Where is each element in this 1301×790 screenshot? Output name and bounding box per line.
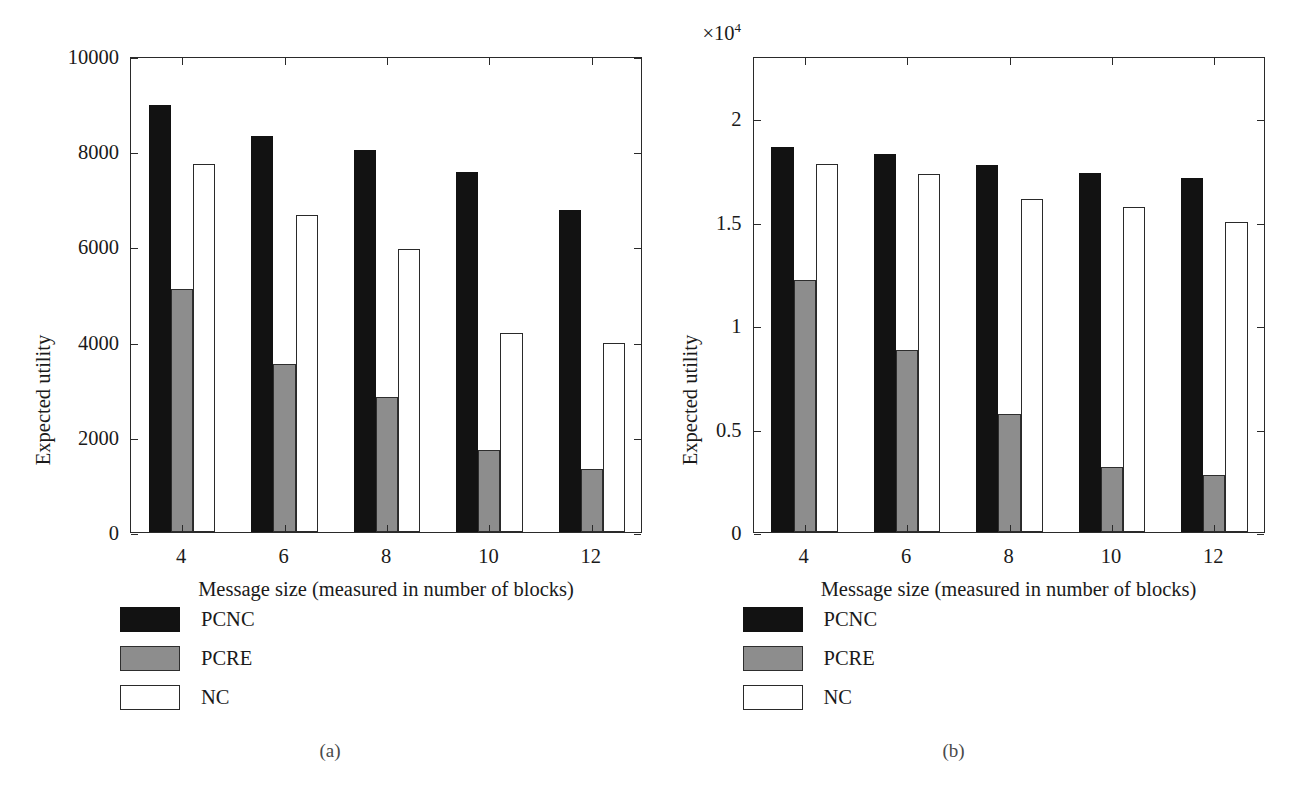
bar-group-b-12 [1181,58,1248,532]
bar-group-a-8 [354,58,421,532]
bar-b-nc-12 [1225,222,1247,532]
y-tick-b-0 [754,534,761,535]
bar-group-b-10 [1079,58,1146,532]
x-tick-label-b-3: 10 [1101,545,1122,568]
x-tick-label-b-0: 4 [799,545,809,568]
bar-b-pcre-8 [998,414,1020,532]
x-tick-top-b-0 [805,58,806,65]
legend-label-pcre-b: PCRE [824,647,875,670]
x-tick-b-4 [1214,525,1215,532]
legend-swatch-pcre-a [120,646,180,671]
bar-a-pcre-6 [273,364,295,532]
y-tick-a-1 [131,439,138,440]
subfigure-b: ×104 Expected utility 00.511.52 4681012 … [651,0,1301,790]
y-tick-right-b-3 [1257,224,1264,225]
x-tick-top-b-3 [1112,58,1113,65]
bar-a-pcnc-4 [149,105,171,532]
y-tick-b-2 [754,327,761,328]
x-tick-b-3 [1112,525,1113,532]
y-axis-label-b: Expected utility [679,335,702,465]
y-tick-right-b-0 [1257,534,1264,535]
bars-layer-a [131,58,641,532]
plot-area-a [130,57,642,533]
bar-b-pcnc-4 [771,147,793,532]
bar-a-pcre-4 [171,289,193,532]
figure-row: Expected utility 0200040006000800010000 … [0,0,1301,790]
y-tick-b-4 [754,120,761,121]
y-tick-right-a-2 [634,344,641,345]
bar-b-nc-10 [1123,207,1145,532]
y-tick-a-3 [131,248,138,249]
y-tick-label-a-0: 0 [0,522,119,545]
bar-a-pcnc-12 [559,210,581,532]
y-tick-a-0 [131,534,138,535]
bar-group-b-6 [874,58,941,532]
bar-a-pcnc-8 [354,150,376,532]
x-tick-top-b-2 [1010,58,1011,65]
y-tick-a-5 [131,58,138,59]
bar-group-b-4 [771,58,838,532]
bar-b-nc-8 [1021,199,1043,532]
y-tick-label-a-2: 4000 [0,331,119,354]
subfigure-caption-a: (a) [319,740,340,762]
legend-label-nc-a: NC [201,686,229,709]
x-tick-top-b-4 [1214,58,1215,65]
legend-item-pcnc-b: PCNC [743,607,878,632]
legend-b: PCNC PCRE NC [743,607,878,710]
legend-item-nc-b: NC [743,685,878,710]
y-tick-b-3 [754,224,761,225]
y-tick-a-4 [131,153,138,154]
y-tick-label-b-4: 2 [640,108,742,131]
y-tick-label-a-3: 6000 [0,236,119,259]
bar-a-nc-6 [296,215,318,532]
multiplier-base: ×10 [703,22,735,44]
bars-layer-b [754,58,1264,532]
y-tick-right-b-4 [1257,120,1264,121]
bar-b-pcnc-8 [976,165,998,532]
x-tick-a-0 [182,525,183,532]
legend-label-nc-b: NC [824,686,852,709]
y-tick-label-a-5: 10000 [0,46,119,69]
bar-a-pcre-10 [478,450,500,532]
legend-swatch-pcnc-b [743,607,803,632]
x-tick-a-1 [285,525,286,532]
bar-group-a-4 [149,58,216,532]
bar-b-nc-4 [816,164,838,532]
x-tick-label-a-4: 12 [581,545,602,568]
x-tick-top-b-1 [907,58,908,65]
subfigure-a: Expected utility 0200040006000800010000 … [0,0,651,790]
bar-b-pcnc-10 [1079,173,1101,532]
x-tick-b-0 [805,525,806,532]
bar-group-a-10 [456,58,523,532]
x-tick-label-a-2: 8 [381,545,391,568]
x-tick-top-a-4 [592,58,593,65]
legend-item-pcre-b: PCRE [743,646,878,671]
legend-item-pcre-a: PCRE [120,646,255,671]
x-tick-label-a-0: 4 [176,545,186,568]
bar-a-pcre-12 [581,469,603,532]
x-tick-label-b-2: 8 [1003,545,1013,568]
x-tick-a-2 [387,525,388,532]
legend-label-pcre-a: PCRE [201,647,252,670]
y-tick-right-b-2 [1257,327,1264,328]
y-tick-right-a-3 [634,248,641,249]
bar-a-pcnc-6 [251,136,273,533]
bar-a-nc-4 [193,164,215,532]
plot-area-b [753,57,1265,533]
x-tick-label-a-3: 10 [478,545,499,568]
y-tick-right-b-1 [1257,431,1264,432]
legend-swatch-pcre-b [743,646,803,671]
bar-b-pcre-4 [794,280,816,532]
y-tick-right-a-4 [634,153,641,154]
x-tick-top-a-1 [285,58,286,65]
bar-a-pcre-8 [376,397,398,532]
x-axis-label-b: Message size (measured in number of bloc… [821,578,1197,601]
bar-group-b-8 [976,58,1043,532]
legend-a: PCNC PCRE NC [120,607,255,710]
bar-a-pcnc-10 [456,172,478,532]
x-tick-label-a-1: 6 [278,545,288,568]
bar-b-nc-6 [918,174,940,532]
y-tick-label-a-4: 8000 [0,141,119,164]
x-tick-b-2 [1010,525,1011,532]
legend-swatch-nc-a [120,685,180,710]
